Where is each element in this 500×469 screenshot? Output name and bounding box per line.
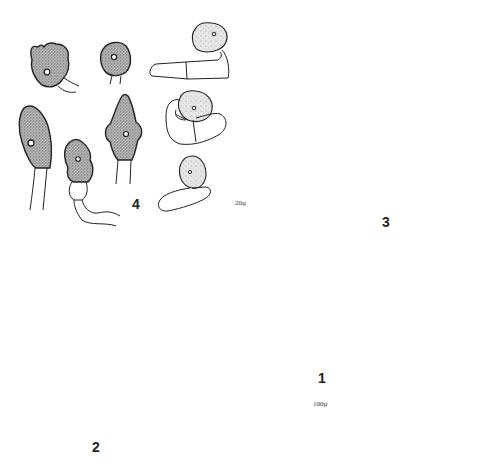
fig4-cell-spindle [106,95,142,185]
illustration-plate [0,0,500,469]
fig4-cell-on-hypha-3 [158,156,210,211]
figure-4 [19,23,229,226]
scale-label-20u: 20µ [235,200,246,207]
fig4-cell-round [101,42,131,84]
fig4-cell-on-hypha-1 [150,23,229,79]
fig4-cell-small-hyphal [65,140,120,226]
figure-label-3: 3 [382,215,390,229]
scale-label-100u: 100µ [313,401,328,408]
figure-label-4: 4 [132,197,140,211]
fig4-cell-lobed [31,43,79,92]
fig4-cell-elongate [19,106,51,210]
figure-label-1: 1 [318,371,326,385]
fig4-cell-on-hypha-2 [166,91,226,145]
figure-label-2: 2 [92,440,100,454]
